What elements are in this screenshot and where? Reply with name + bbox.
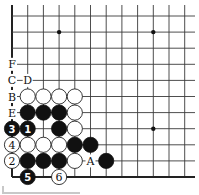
white-stone-icon [36, 137, 51, 152]
point-label-b: B [8, 91, 16, 104]
black-stone-icon [52, 105, 67, 120]
white-stone [52, 89, 67, 104]
point-label-f: F [8, 58, 16, 71]
white-stone-icon [20, 137, 35, 152]
move-number: 3 [9, 124, 16, 135]
black-stone [52, 105, 67, 120]
white-stone-icon [67, 153, 82, 168]
white-stone [67, 153, 82, 168]
black-stone-icon [67, 137, 82, 152]
white-stone [20, 137, 35, 152]
white-stone-icon [36, 89, 51, 104]
white-stone [20, 89, 35, 104]
white-stone [67, 105, 82, 120]
go-board-diagram: FCDBEA 314256 [0, 0, 199, 195]
black-stone [36, 153, 51, 168]
white-stone-6: 6 [52, 169, 67, 184]
white-stone-2: 2 [4, 153, 19, 168]
white-stone [67, 121, 82, 136]
move-number: 4 [9, 139, 16, 152]
point-label-c: C [8, 74, 16, 87]
black-stone-icon [20, 105, 35, 120]
white-stone-icon [52, 89, 67, 104]
white-stone [67, 89, 82, 104]
move-number: 5 [24, 172, 31, 183]
white-stone [36, 137, 51, 152]
white-stone-4: 4 [4, 137, 19, 152]
black-stone [36, 105, 51, 120]
black-stone [83, 137, 98, 152]
white-stone [36, 89, 51, 104]
star-point-icon [151, 30, 155, 34]
black-stone-icon [52, 153, 67, 168]
black-stone-icon [36, 153, 51, 168]
move-number: 6 [56, 171, 63, 184]
black-stone-1: 1 [20, 121, 35, 136]
black-stone-icon [83, 137, 98, 152]
black-stone-icon [36, 105, 51, 120]
black-stone-icon [20, 153, 35, 168]
move-number: 2 [9, 155, 16, 168]
black-stone [20, 105, 35, 120]
white-stone [52, 137, 67, 152]
star-point-icon [57, 30, 61, 34]
move-number: 1 [24, 124, 31, 135]
black-stone-icon [52, 121, 67, 136]
white-stone-icon [67, 89, 82, 104]
black-stone [52, 153, 67, 168]
star-point-icon [151, 127, 155, 131]
black-stone [99, 153, 114, 168]
white-stone-icon [67, 121, 82, 136]
black-stone-5: 5 [20, 169, 35, 184]
black-stone-3: 3 [4, 121, 19, 136]
black-stone [52, 121, 67, 136]
point-label-e: E [8, 107, 16, 120]
black-stone [67, 137, 82, 152]
white-stone-icon [20, 89, 35, 104]
white-stone-icon [67, 105, 82, 120]
black-stone-icon [99, 153, 114, 168]
white-stone-icon [52, 137, 67, 152]
point-label-a: A [86, 155, 96, 168]
black-stone [20, 153, 35, 168]
point-label-d: D [23, 74, 32, 87]
